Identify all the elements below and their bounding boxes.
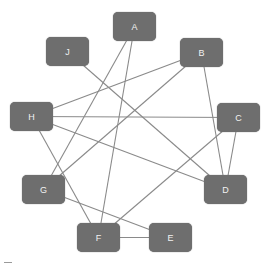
node-label: G — [40, 185, 47, 195]
edge-H-C — [32, 117, 239, 118]
node-label: J — [65, 47, 70, 57]
edge-J-D — [68, 52, 226, 190]
node-label: A — [131, 22, 137, 32]
node-C[interactable]: C — [217, 103, 260, 132]
node-label: F — [96, 233, 102, 243]
node-label: H — [28, 112, 35, 122]
node-H[interactable]: H — [10, 102, 53, 131]
node-label: E — [167, 233, 173, 243]
graph-canvas: ABCDEFGHJ — [0, 0, 271, 266]
node-D[interactable]: D — [204, 175, 247, 204]
node-A[interactable]: A — [113, 12, 156, 41]
node-label: D — [222, 185, 229, 195]
node-F[interactable]: F — [77, 223, 120, 252]
stray-mark — [4, 262, 12, 263]
node-J[interactable]: J — [46, 37, 89, 66]
node-E[interactable]: E — [149, 223, 192, 252]
node-label: B — [198, 48, 204, 58]
node-G[interactable]: G — [22, 175, 65, 204]
node-label: C — [235, 113, 242, 123]
node-B[interactable]: B — [180, 38, 223, 67]
